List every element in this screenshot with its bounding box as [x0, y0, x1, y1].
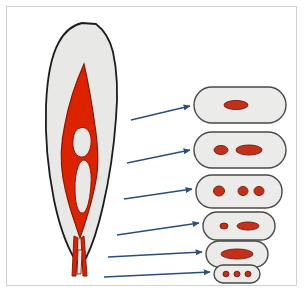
arrow-layer — [104, 106, 210, 277]
arrow-to-section-1 — [131, 106, 190, 120]
section-layer — [194, 87, 286, 283]
section-2-vein-bundle-1 — [214, 146, 228, 155]
section-2-vein-bundle-2 — [236, 145, 262, 155]
section-1-vein-bundle-1 — [224, 101, 248, 110]
section-3-vein-bundle-1 — [214, 186, 225, 196]
section-6-vein-bundle-2 — [234, 271, 240, 277]
arrow-to-section-4 — [117, 223, 199, 235]
section-3-vein-bundle-2 — [238, 187, 248, 196]
transverse-section-2 — [194, 132, 286, 168]
section-6-vein-bundle-3 — [245, 271, 251, 277]
section-4-vein-bundle-2 — [237, 222, 259, 230]
arrow-to-section-2 — [127, 150, 190, 163]
figure-canvas — [0, 0, 305, 294]
section-4-vein-bundle-1 — [220, 223, 228, 229]
figure-root — [0, 0, 305, 294]
arrow-to-section-6 — [104, 272, 210, 277]
arrow-to-section-3 — [124, 189, 192, 199]
arrow-to-section-5 — [108, 252, 202, 257]
transverse-section-4 — [203, 212, 275, 240]
transverse-section-5 — [206, 241, 268, 267]
transverse-section-3 — [196, 175, 282, 208]
leaf-layer — [46, 23, 117, 276]
section-3-vein-bundle-3 — [254, 187, 264, 196]
section-6-vein-bundle-1 — [223, 271, 229, 277]
midrib-lacuna-upper — [73, 127, 91, 157]
section-5-vein-bundle-1 — [221, 249, 253, 259]
transverse-section-6 — [214, 265, 260, 283]
transverse-section-1 — [194, 87, 286, 123]
petiole-gap — [77, 250, 82, 274]
